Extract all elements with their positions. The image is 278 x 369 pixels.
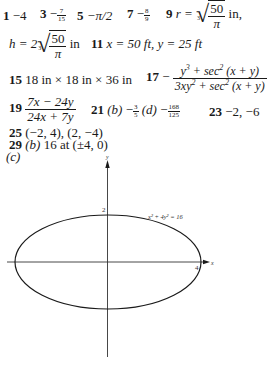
- ellipse-graph: y x 2 4 x² + 4y² = 16: [0, 0, 278, 369]
- y-axis-arrow-icon: [105, 160, 109, 168]
- y-axis-label: y: [105, 154, 109, 160]
- x-axis-label: x: [210, 260, 214, 266]
- x-axis-arrow-icon: [203, 260, 210, 264]
- curve-equation-label: x² + 4y² = 16: [147, 213, 183, 220]
- x-intercept-label: 4: [195, 264, 199, 272]
- y-intercept-label: 2: [102, 206, 106, 214]
